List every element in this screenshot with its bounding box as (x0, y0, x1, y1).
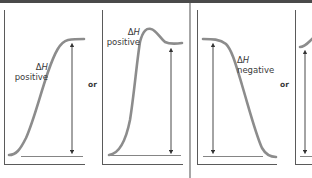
top-border (0, 0, 312, 3)
enthalpy-diagram: ΔH positive or ΔH positive ΔH negative o… (0, 0, 312, 178)
sign-text: negative (237, 65, 274, 75)
sign-text: positive (15, 72, 48, 82)
panel-4 (295, 10, 312, 165)
panel-1 (4, 10, 85, 165)
panel-2-label: ΔH positive (103, 27, 140, 47)
diagram-canvas (0, 0, 312, 178)
panel-3-label: ΔH negative (237, 55, 274, 75)
or-connector-left: or (88, 80, 97, 89)
delta-h-symbol: ΔH (103, 27, 140, 37)
energy-curve (9, 39, 84, 155)
or-connector-right: or (280, 80, 289, 89)
energy-curve (300, 38, 312, 47)
sign-text: positive (107, 37, 140, 47)
panel-3 (197, 10, 277, 165)
delta-h-symbol: ΔH (237, 55, 274, 65)
panel-1-label: ΔH positive (12, 62, 48, 82)
delta-h-symbol: ΔH (12, 62, 48, 72)
